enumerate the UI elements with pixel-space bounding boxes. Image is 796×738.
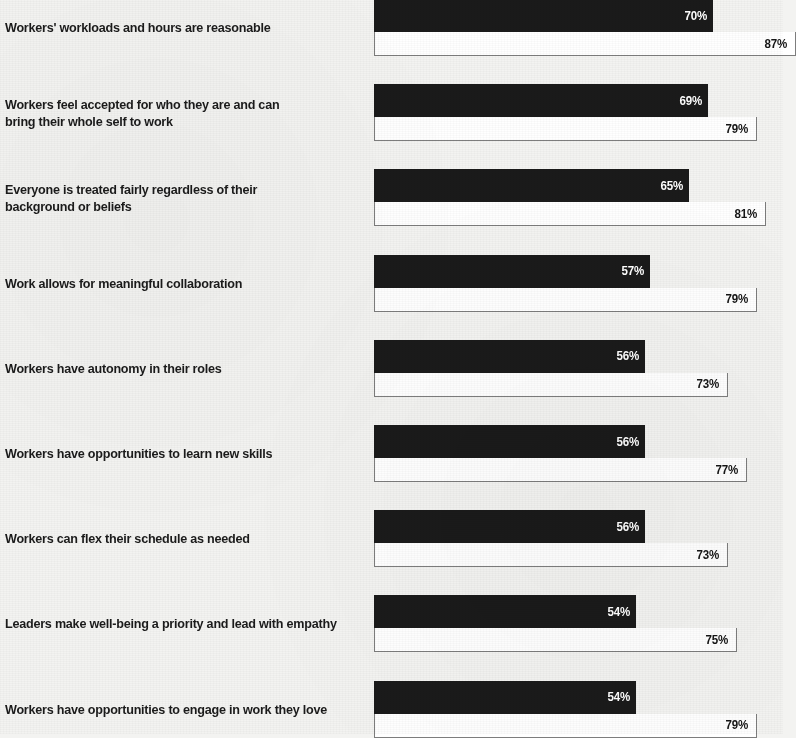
category-label-line: background or beliefs — [5, 198, 349, 215]
bar-pair: 56%77% — [374, 425, 747, 482]
bar-dark: 54% — [374, 595, 636, 628]
category-label-line: Everyone is treated fairly regardless of… — [5, 181, 349, 198]
bar-light: 73% — [374, 543, 728, 567]
bar-light: 79% — [374, 117, 757, 141]
bar-value-label: 65% — [660, 179, 683, 193]
category-label: Workers have opportunities to engage in … — [5, 701, 349, 718]
bar-light: 79% — [374, 288, 757, 312]
bar-dark: 54% — [374, 681, 636, 714]
bar-light: 81% — [374, 202, 766, 226]
bar-dark: 56% — [374, 510, 645, 543]
category-label-line: Workers' workloads and hours are reasona… — [5, 19, 349, 36]
bar-value-label: 77% — [715, 463, 738, 477]
category-label: Workers have opportunities to learn new … — [5, 445, 349, 462]
bar-pair: 65%81% — [374, 169, 766, 226]
bar-value-label: 54% — [607, 690, 630, 704]
bar-pair: 54%79% — [374, 681, 757, 738]
bar-dark: 56% — [374, 425, 645, 458]
bar-pair: 56%73% — [374, 510, 728, 567]
bar-dark: 69% — [374, 84, 708, 117]
category-label: Leaders make well-being a priority and l… — [5, 615, 349, 632]
bar-dark: 70% — [374, 0, 713, 32]
bar-value-label: 75% — [705, 633, 728, 647]
bar-value-label: 87% — [764, 37, 787, 51]
bar-pair: 57%79% — [374, 255, 757, 312]
category-label-line: Workers have autonomy in their roles — [5, 360, 349, 377]
category-label: Workers have autonomy in their roles — [5, 360, 349, 377]
category-label: Workers' workloads and hours are reasona… — [5, 19, 349, 36]
bar-light: 79% — [374, 714, 757, 738]
bar-dark: 57% — [374, 255, 650, 288]
category-label-line: Work allows for meaningful collaboration — [5, 275, 349, 292]
bar-dark: 65% — [374, 169, 689, 202]
category-label: Everyone is treated fairly regardless of… — [5, 181, 349, 215]
bar-value-label: 79% — [725, 292, 748, 306]
bar-light: 73% — [374, 373, 728, 397]
category-label-line: Workers have opportunities to engage in … — [5, 701, 349, 718]
category-label: Workers can flex their schedule as neede… — [5, 530, 349, 547]
bar-value-label: 73% — [696, 548, 719, 562]
bar-value-label: 56% — [616, 520, 639, 534]
bar-light: 75% — [374, 628, 737, 652]
bar-value-label: 54% — [607, 605, 630, 619]
category-label-line: Leaders make well-being a priority and l… — [5, 615, 349, 632]
bar-pair: 70%87% — [374, 0, 796, 56]
category-label-line: Workers feel accepted for who they are a… — [5, 96, 349, 113]
category-label: Workers feel accepted for who they are a… — [5, 96, 349, 130]
bar-value-label: 81% — [734, 207, 757, 221]
category-label: Work allows for meaningful collaboration — [5, 275, 349, 292]
bar-light: 77% — [374, 458, 747, 482]
bar-value-label: 70% — [684, 9, 707, 23]
category-label-line: bring their whole self to work — [5, 113, 349, 130]
bar-pair: 56%73% — [374, 340, 728, 397]
bar-dark: 56% — [374, 340, 645, 373]
bar-value-label: 73% — [696, 377, 719, 391]
bar-value-label: 79% — [725, 122, 748, 136]
bar-pair: 69%79% — [374, 84, 757, 141]
bar-value-label: 56% — [616, 349, 639, 363]
bar-pair: 54%75% — [374, 595, 737, 652]
bar-value-label: 69% — [679, 94, 702, 108]
bar-value-label: 56% — [616, 435, 639, 449]
category-label-line: Workers have opportunities to learn new … — [5, 445, 349, 462]
category-label-line: Workers can flex their schedule as neede… — [5, 530, 349, 547]
bar-value-label: 57% — [621, 264, 644, 278]
bar-value-label: 79% — [725, 718, 748, 732]
bar-light: 87% — [374, 32, 796, 56]
